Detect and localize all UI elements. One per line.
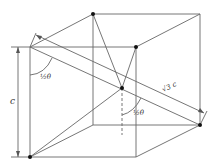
depth-edge-top-right: [136, 14, 200, 47]
cube-diagram: [0, 0, 215, 167]
line-center-to-corner: [30, 88, 122, 157]
arrowhead-diag-left: [36, 35, 42, 40]
depth-edge-bottom-right: [136, 125, 200, 157]
depth-edge-bottom-left: [30, 125, 93, 157]
arrowhead-diag-right: [198, 108, 204, 113]
edge-label-c: c: [10, 97, 15, 106]
arrowhead-c-bottom: [16, 151, 20, 157]
line-to-center-a: [93, 14, 122, 88]
dim-tick-left: [30, 33, 36, 47]
vertex-dot: [134, 45, 138, 49]
angle-label-lower: ½θ: [133, 110, 144, 117]
angle-label-upper: ½θ: [40, 74, 51, 81]
center-dot: [120, 86, 124, 90]
vertex-dot: [28, 155, 32, 159]
vertex-dot: [91, 12, 95, 16]
line-to-center-b: [122, 47, 136, 88]
vertex-dot: [198, 123, 202, 127]
arrowhead-c-top: [16, 47, 20, 53]
depth-edge-top-left: [30, 14, 93, 47]
